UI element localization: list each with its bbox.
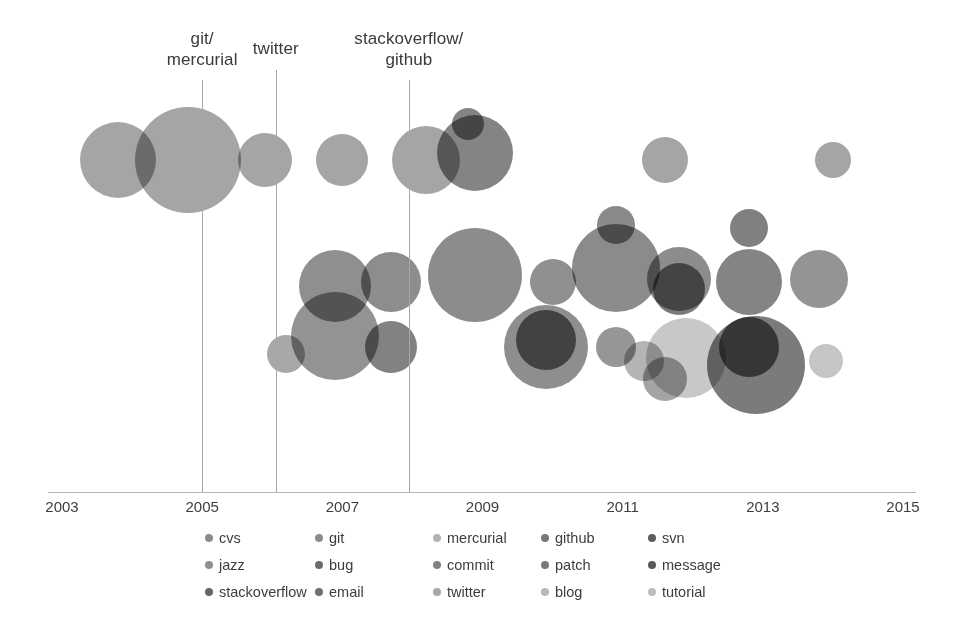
x-tick-label: 2015 [868, 498, 938, 515]
x-axis-line [48, 492, 916, 493]
legend-item-twitter[interactable]: twitter [433, 584, 486, 600]
annotation-line [276, 70, 277, 492]
chart-legend: cvsgitmercurialgithubsvnjazzbugcommitpat… [205, 530, 805, 611]
legend-dot-icon [433, 534, 441, 542]
legend-row: cvsgitmercurialgithubsvn [205, 530, 805, 557]
legend-item-message[interactable]: message [648, 557, 721, 573]
bubble [719, 317, 779, 377]
legend-item-blog[interactable]: blog [541, 584, 582, 600]
x-tick-label: 2013 [728, 498, 798, 515]
legend-item-svn[interactable]: svn [648, 530, 685, 546]
legend-item-jazz[interactable]: jazz [205, 557, 245, 573]
legend-dot-icon [648, 561, 656, 569]
bubble [815, 142, 851, 178]
legend-dot-icon [648, 534, 656, 542]
x-tick-label: 2011 [588, 498, 658, 515]
legend-item-label: stackoverflow [219, 584, 307, 600]
bubble-chart: git/ mercurialtwitterstackoverflow/ gith… [0, 0, 963, 634]
legend-item-patch[interactable]: patch [541, 557, 590, 573]
legend-dot-icon [541, 588, 549, 596]
legend-dot-icon [433, 588, 441, 596]
plot-area [0, 0, 963, 500]
annotation-label: stackoverflow/ github [319, 28, 499, 70]
annotation-line [409, 80, 410, 492]
legend-item-bug[interactable]: bug [315, 557, 353, 573]
legend-dot-icon [205, 534, 213, 542]
bubble [428, 228, 522, 322]
bubble [597, 206, 635, 244]
bubble [653, 263, 705, 315]
legend-item-label: message [662, 557, 721, 573]
bubble [361, 252, 421, 312]
legend-item-git[interactable]: git [315, 530, 344, 546]
bubble [643, 357, 687, 401]
bubble [238, 133, 292, 187]
legend-item-github[interactable]: github [541, 530, 595, 546]
legend-dot-icon [648, 588, 656, 596]
bubble [790, 250, 848, 308]
legend-item-label: cvs [219, 530, 241, 546]
bubble [135, 107, 241, 213]
legend-item-label: github [555, 530, 595, 546]
legend-item-label: patch [555, 557, 590, 573]
legend-dot-icon [205, 588, 213, 596]
legend-item-cvs[interactable]: cvs [205, 530, 241, 546]
legend-dot-icon [541, 534, 549, 542]
bubble [316, 134, 368, 186]
legend-dot-icon [315, 561, 323, 569]
legend-item-label: git [329, 530, 344, 546]
legend-item-label: email [329, 584, 364, 600]
legend-dot-icon [433, 561, 441, 569]
legend-item-label: commit [447, 557, 494, 573]
legend-item-label: twitter [447, 584, 486, 600]
x-tick-label: 2003 [27, 498, 97, 515]
legend-row: jazzbugcommitpatchmessage [205, 557, 805, 584]
x-tick-label: 2007 [307, 498, 377, 515]
x-tick-label: 2005 [167, 498, 237, 515]
legend-row: stackoverflowemailtwitterblogtutorial [205, 584, 805, 611]
legend-item-tutorial[interactable]: tutorial [648, 584, 706, 600]
legend-item-mercurial[interactable]: mercurial [433, 530, 507, 546]
legend-item-label: jazz [219, 557, 245, 573]
legend-item-stackoverflow[interactable]: stackoverflow [205, 584, 307, 600]
legend-item-label: tutorial [662, 584, 706, 600]
x-tick-label: 2009 [448, 498, 518, 515]
legend-item-email[interactable]: email [315, 584, 364, 600]
legend-dot-icon [205, 561, 213, 569]
bubble [516, 310, 576, 370]
legend-item-label: blog [555, 584, 582, 600]
legend-item-label: bug [329, 557, 353, 573]
legend-dot-icon [315, 588, 323, 596]
legend-item-commit[interactable]: commit [433, 557, 494, 573]
legend-dot-icon [315, 534, 323, 542]
bubble [809, 344, 843, 378]
annotation-line [202, 80, 203, 492]
legend-item-label: svn [662, 530, 685, 546]
legend-dot-icon [541, 561, 549, 569]
legend-item-label: mercurial [447, 530, 507, 546]
bubble [730, 209, 768, 247]
bubble [716, 249, 782, 315]
bubble [642, 137, 688, 183]
bubble [530, 259, 576, 305]
